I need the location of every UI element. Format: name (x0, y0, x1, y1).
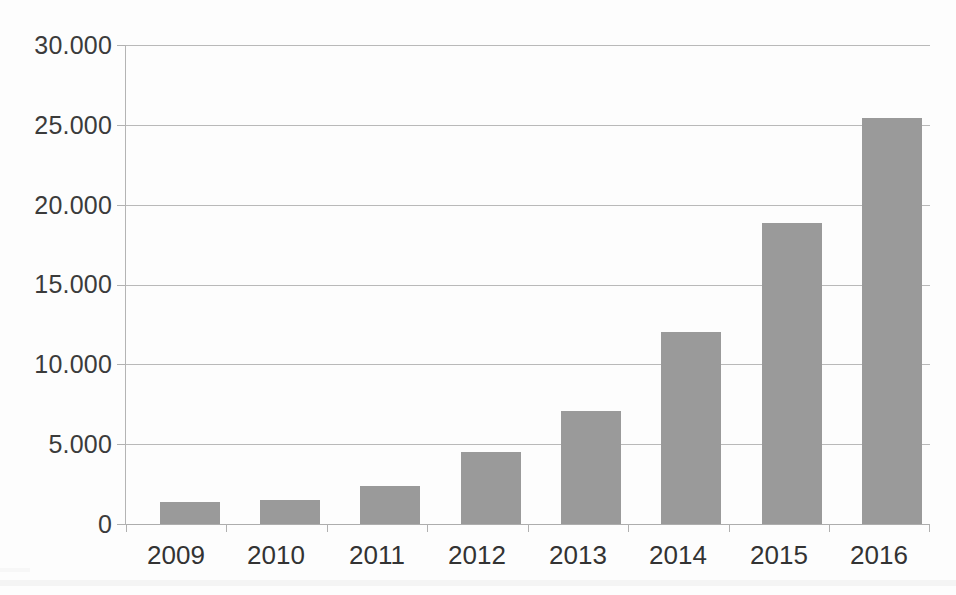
x-axis-tick (327, 524, 328, 532)
y-axis-tick-label: 30.000 (4, 33, 112, 58)
x-axis-label-2011: 2011 (327, 540, 427, 570)
bar-chart: 30.000 25.000 20.000 15.000 10.000 5.000… (0, 0, 956, 595)
x-axis-tick (427, 524, 428, 532)
y-axis-tick-label: 20.000 (4, 193, 112, 218)
bar-2011 (360, 486, 420, 524)
plot-area (126, 45, 930, 524)
x-axis-label-2016: 2016 (829, 540, 929, 570)
y-axis-tick-label: 15.000 (4, 272, 112, 297)
x-axis-label-2009: 2009 (126, 540, 226, 570)
x-axis-label-2015: 2015 (729, 540, 829, 570)
y-axis-tick-label: 5.000 (4, 432, 112, 457)
x-axis-label-2010: 2010 (226, 540, 326, 570)
x-axis-tick (829, 524, 830, 532)
y-axis-tick-label: 0 (4, 512, 112, 537)
y-axis-labels: 30.000 25.000 20.000 15.000 10.000 5.000… (0, 0, 112, 595)
bar-2015 (762, 223, 822, 524)
x-axis-tick (126, 524, 127, 532)
bar-2014 (661, 332, 721, 524)
x-axis-tick (729, 524, 730, 532)
scan-artifact (0, 568, 30, 572)
gridline-25000 (126, 125, 930, 126)
y-axis-tick-label: 10.000 (4, 352, 112, 377)
bar-2013 (561, 411, 621, 524)
x-axis-label-2014: 2014 (628, 540, 728, 570)
bar-2016 (862, 118, 922, 524)
gridline-20000 (126, 205, 930, 206)
scan-artifact (0, 580, 956, 586)
bar-2009 (160, 502, 220, 524)
x-axis-tick (528, 524, 529, 532)
bar-2010 (260, 500, 320, 524)
gridline-30000 (126, 45, 930, 46)
y-axis-tick-label: 25.000 (4, 113, 112, 138)
x-axis-tick (929, 524, 930, 532)
bar-2012 (461, 452, 521, 524)
x-axis-tick (628, 524, 629, 532)
x-axis-tick (226, 524, 227, 532)
x-axis-label-2012: 2012 (427, 540, 527, 570)
x-axis-label-2013: 2013 (528, 540, 628, 570)
